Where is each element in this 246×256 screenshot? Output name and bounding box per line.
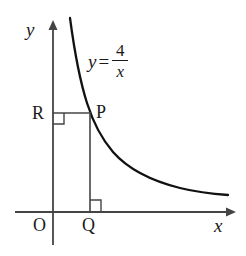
origin-label: O (33, 216, 46, 234)
equation-denominator: x (114, 61, 126, 80)
x-axis-label: x (214, 216, 222, 235)
point-label-p: P (96, 103, 106, 121)
hyperbola-figure: y x O P R Q y = 4 x (0, 0, 246, 256)
x-axis (15, 208, 236, 217)
equation-equals-sign: = (98, 52, 109, 71)
x-axis-arrowhead (226, 208, 236, 217)
right-angle-marker-R (53, 113, 64, 124)
equation-lhs: y (88, 52, 96, 71)
equation-fraction: 4 x (112, 42, 128, 80)
equation-label: y = 4 x (88, 42, 128, 80)
y-axis-label: y (26, 20, 34, 39)
right-angle-marker-Q (90, 200, 101, 212)
point-label-q: Q (82, 216, 95, 234)
y-axis-arrowhead (49, 20, 58, 30)
equation-numerator: 4 (114, 42, 127, 60)
point-label-r: R (32, 104, 44, 122)
